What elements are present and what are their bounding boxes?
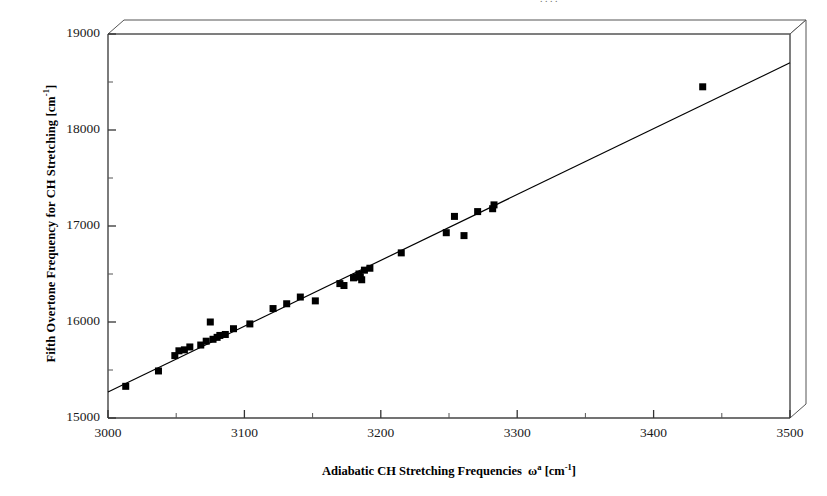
data-point-marker — [451, 213, 458, 220]
plot-canvas — [0, 0, 827, 496]
data-point-marker — [491, 201, 498, 208]
data-point-marker — [297, 294, 304, 301]
data-point-marker — [366, 265, 373, 272]
data-point-marker — [186, 343, 193, 350]
data-point-marker — [312, 297, 319, 304]
data-point-marker — [203, 338, 210, 345]
plot-background — [108, 34, 790, 418]
data-point-marker — [122, 383, 129, 390]
data-point-marker — [283, 300, 290, 307]
frame-top-bevel — [108, 20, 806, 34]
data-point-marker — [461, 232, 468, 239]
data-point-marker — [699, 83, 706, 90]
data-point-marker — [443, 229, 450, 236]
data-point-marker — [222, 331, 229, 338]
data-point-marker — [155, 367, 162, 374]
data-point-marker — [474, 208, 481, 215]
data-point-marker — [246, 320, 253, 327]
data-point-marker — [398, 249, 405, 256]
data-point-marker — [270, 305, 277, 312]
data-point-marker — [340, 282, 347, 289]
frame-right-bevel — [790, 20, 806, 418]
data-point-marker — [230, 325, 237, 332]
data-point-marker — [207, 319, 214, 326]
scatter-plot-figure: . . . . Fifth Overtone Frequency for CH … — [0, 0, 827, 496]
data-point-marker — [358, 276, 365, 283]
